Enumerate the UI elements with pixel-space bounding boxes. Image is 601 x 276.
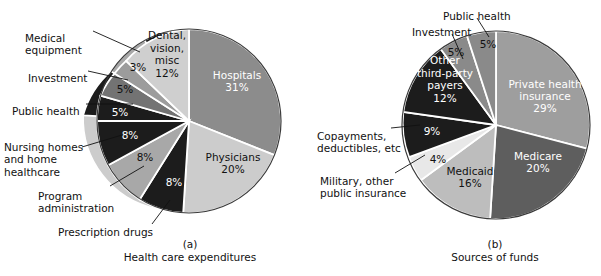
callout-label-prescription-drugs: Prescription drugs <box>58 226 153 238</box>
pie-slice-label-investment-pct-b: 5% <box>448 46 465 58</box>
panel-a-caption-title: Health care expenditures <box>95 251 285 264</box>
pie-slice-label-nursing-homes-pct: 8% <box>122 129 139 141</box>
callout-label-investment: Investment <box>28 72 87 84</box>
pie-slice-label-public-health-pct: 5% <box>112 106 129 118</box>
pie-slice-label-medical-equipment-pct: 3% <box>130 61 147 73</box>
pie-slice-label-investment-pct: 5% <box>117 83 134 95</box>
panel-b-caption: (b) Sources of funds <box>400 238 590 264</box>
pie-slice-label-public-health-pct-b: 5% <box>480 38 497 50</box>
pie-chart-svg: Hospitals31%Physicians20%Dental,vision,m… <box>0 0 601 276</box>
panel-b-caption-key: (b) <box>400 238 590 251</box>
callout-label-program-administration: Programadministration <box>38 190 114 214</box>
callout-label-copayments-deductibles: Copayments,deductibles, etc <box>317 130 401 154</box>
callout-label-medical-equipment: Medicalequipment <box>25 32 82 56</box>
panel-a-caption-key: (a) <box>95 238 285 251</box>
panel-b-caption-title: Sources of funds <box>400 251 590 264</box>
callout-label-public-health-b: Public health <box>443 10 511 22</box>
pie-chart-figure: Hospitals31%Physicians20%Dental,vision,m… <box>0 0 601 276</box>
pie-slice-label-prescription-drugs-pct: 8% <box>166 176 183 188</box>
callout-label-investment-b: Investment <box>412 26 471 38</box>
callout-label-military-other-public-insurance: Military, otherpublic insurance <box>320 175 406 199</box>
callout-label-public-health: Public health <box>12 105 80 117</box>
leader-medical-equipment <box>93 31 140 52</box>
panel-a-caption: (a) Health care expenditures <box>95 238 285 264</box>
callout-label-nursing-homes-home-healthcare: Nursing homesand homehealthcare <box>4 141 83 178</box>
pie-slice-label-military-pct: 4% <box>430 153 447 165</box>
pie-slice-label-copayments-pct: 9% <box>424 125 441 137</box>
pie-slice-label-program-administration-pct: 8% <box>137 151 154 163</box>
